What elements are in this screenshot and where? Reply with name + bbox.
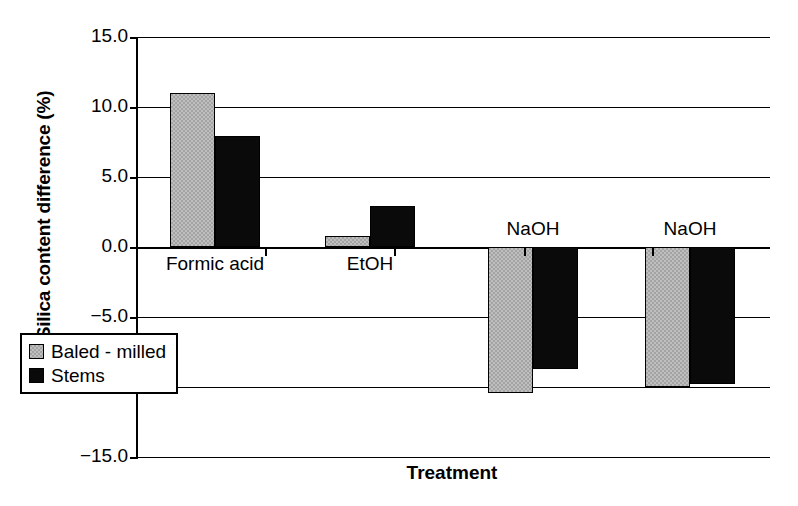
- x-axis-category-label: NaOH: [507, 218, 560, 240]
- x-axis-tickmark: [524, 247, 526, 256]
- bar-etoh-baled-milled: [325, 236, 370, 247]
- y-axis-tick-label: 0.0: [56, 236, 128, 256]
- bar-naoh-stems: [690, 247, 735, 384]
- y-axis-tick-label: 5.0: [56, 166, 128, 186]
- y-axis-tickmark: [130, 457, 138, 459]
- y-axis-tick-label: −5.0: [56, 306, 128, 326]
- bar-naoh-baled-milled: [488, 247, 533, 393]
- legend-item: Stems: [29, 363, 166, 387]
- x-axis-category-label: Formic acid: [166, 253, 264, 275]
- gridline: [138, 457, 770, 458]
- y-axis-tick-labels: 15.010.05.00.0−5.0−10.0−15.0: [52, 0, 128, 506]
- legend-item: Baled - milled: [29, 339, 166, 363]
- chart-legend: Baled - milledStems: [20, 333, 178, 394]
- gridline: [138, 107, 770, 108]
- gridline: [138, 387, 770, 388]
- legend-item-label: Baled - milled: [51, 342, 166, 361]
- y-axis-tickmark: [130, 107, 138, 109]
- bar-naoh-baled-milled: [645, 247, 690, 387]
- y-axis-tickmark: [130, 177, 138, 179]
- x-axis-tickmark: [394, 247, 396, 256]
- y-axis-tick-label: −15.0: [56, 446, 128, 466]
- y-axis-tickmark: [130, 317, 138, 319]
- x-axis-category-label: NaOH: [664, 218, 717, 240]
- plot-area: Formic acidEtOHNaOHNaOH: [136, 37, 768, 457]
- legend-item-label: Stems: [51, 366, 105, 385]
- gridline: [138, 37, 770, 38]
- legend-swatch-icon: [29, 344, 44, 359]
- y-axis-tick-label: 15.0: [56, 26, 128, 46]
- y-axis-tickmark: [130, 37, 138, 39]
- x-axis-tickmark: [265, 247, 267, 256]
- y-axis-tick-label: 10.0: [56, 96, 128, 116]
- bar-etoh-stems: [370, 206, 415, 247]
- bar-formic-acid-baled-milled: [170, 93, 215, 247]
- x-axis-category-label: EtOH: [347, 253, 393, 275]
- legend-swatch-icon: [29, 368, 44, 383]
- y-axis-tickmark: [130, 247, 138, 249]
- x-axis-title: Treatment: [136, 462, 768, 484]
- x-axis-tickmark: [652, 247, 654, 256]
- bar-naoh-stems: [533, 247, 578, 369]
- silica-content-difference-bar-chart: Silica content difference (%) 15.010.05.…: [0, 0, 798, 506]
- bar-formic-acid-stems: [215, 136, 260, 247]
